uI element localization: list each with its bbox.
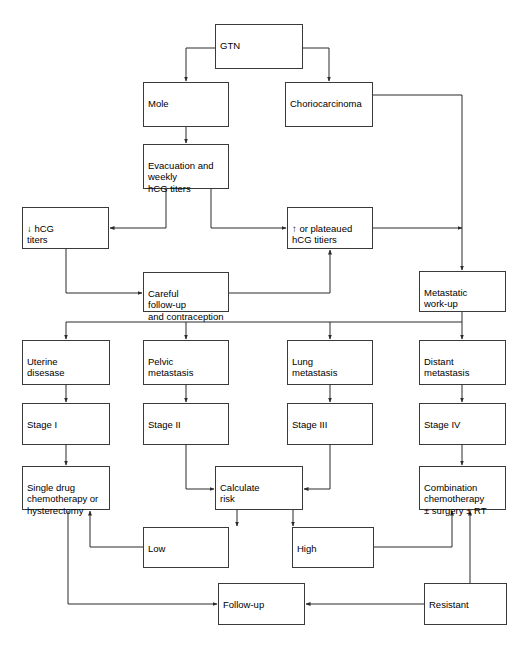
- node-lung-metastasis[interactable]: Lung metastasis: [287, 340, 373, 385]
- node-label: Stage III: [292, 419, 372, 431]
- node-label: Stage II: [148, 419, 228, 431]
- node-label: ↓ hCG titers: [27, 223, 108, 246]
- node-label: High: [297, 543, 373, 555]
- node-single-drug-chemotherapy[interactable]: Single drug chemotherapy or hysterectomy: [22, 466, 110, 510]
- node-follow-up[interactable]: Follow-up: [218, 583, 305, 625]
- node-stage-2[interactable]: Stage II: [143, 403, 229, 445]
- node-label: ↑ or plateaued hCG titiers: [292, 223, 372, 246]
- node-label: Mole: [148, 98, 228, 110]
- node-label: Calculate risk: [220, 482, 302, 505]
- node-low-risk[interactable]: Low: [143, 527, 229, 568]
- node-distant-metastasis[interactable]: Distant metastasis: [419, 340, 506, 385]
- node-label: Single drug chemotherapy or hysterectomy: [27, 482, 109, 517]
- node-label: Combination chemotherapy ± surgery ± RT: [424, 482, 505, 517]
- node-stage-1[interactable]: Stage I: [22, 403, 110, 445]
- node-label: Lung metastasis: [292, 356, 372, 379]
- node-label: Follow-up: [223, 599, 304, 611]
- node-label: Pelvic metastasis: [148, 356, 228, 379]
- node-label: Evacuation and weekly hCG titers: [148, 160, 228, 195]
- node-label: Distant metastasis: [424, 356, 505, 379]
- edge-stage3-calculate: [304, 445, 330, 489]
- node-label: Careful follow-up and contraception: [148, 288, 228, 323]
- node-careful-followup-contraception[interactable]: Careful follow-up and contraception: [143, 272, 229, 312]
- node-label: Stage IV: [424, 419, 505, 431]
- node-label: GTN: [220, 40, 302, 52]
- node-label: Stage I: [27, 419, 109, 431]
- node-resistant[interactable]: Resistant: [424, 583, 507, 625]
- edge-stage2-calculate: [186, 445, 214, 489]
- flowchart-canvas: GTN Mole Choriocarcinoma Evacuation and …: [0, 0, 529, 645]
- node-calculate-risk[interactable]: Calculate risk: [215, 466, 303, 510]
- node-pelvic-metastasis[interactable]: Pelvic metastasis: [143, 340, 229, 385]
- edge-chorio-metastatic: [373, 95, 462, 270]
- node-uterine-disease[interactable]: Uterine disesase: [22, 340, 110, 385]
- node-high-risk[interactable]: High: [292, 527, 374, 568]
- node-label: Metastatic work-up: [424, 287, 505, 310]
- flowchart-connectors: [0, 0, 529, 645]
- node-stage-4[interactable]: Stage IV: [419, 403, 506, 445]
- node-stage-3[interactable]: Stage III: [287, 403, 373, 445]
- node-metastatic-workup[interactable]: Metastatic work-up: [419, 271, 506, 312]
- edge-gtn-mole: [186, 48, 215, 81]
- node-rising-or-plateaued-hcg-titers[interactable]: ↑ or plateaued hCG titiers: [287, 207, 373, 249]
- node-evacuation-weekly-hcg[interactable]: Evacuation and weekly hCG titers: [143, 144, 229, 189]
- node-label: Uterine disesase: [27, 356, 109, 379]
- node-combination-chemotherapy[interactable]: Combination chemotherapy ± surgery ± RT: [419, 466, 506, 510]
- node-label: Choriocarcinoma: [290, 98, 372, 110]
- node-decreasing-hcg-titers[interactable]: ↓ hCG titers: [22, 207, 109, 249]
- node-label: Low: [148, 543, 228, 555]
- node-choriocarcinoma[interactable]: Choriocarcinoma: [285, 82, 373, 127]
- node-gtn[interactable]: GTN: [215, 24, 303, 69]
- node-mole[interactable]: Mole: [143, 82, 229, 127]
- node-label: Resistant: [429, 599, 506, 611]
- edge-gtn-chorio: [303, 48, 329, 81]
